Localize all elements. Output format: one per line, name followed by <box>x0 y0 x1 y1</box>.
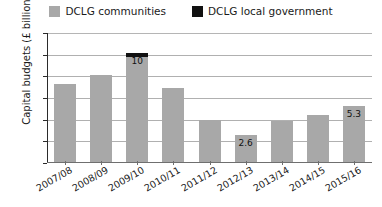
legend-item-dclg-local-government: DCLG local government <box>192 6 333 17</box>
bar-segment-communities <box>199 120 221 163</box>
y-tick-mark <box>43 163 47 164</box>
x-tick-label: 2010/11 <box>139 165 182 196</box>
bar-group <box>199 33 221 163</box>
plot-area: 024681012 102.65.3 <box>47 33 372 163</box>
bar-segment-communities <box>307 115 329 163</box>
x-tick-label: 2009/10 <box>103 165 146 196</box>
x-tick-label: 2008/09 <box>67 165 110 196</box>
x-tick-label: 2011/12 <box>175 165 218 196</box>
bar-group: 2.6 <box>235 33 257 163</box>
x-tick-label: 2012/13 <box>212 165 255 196</box>
bar-series-container: 102.65.3 <box>47 33 372 163</box>
bar-segment-communities <box>126 57 148 163</box>
x-tick-label: 2015/16 <box>320 165 363 196</box>
legend-item-dclg-communities: DCLG communities <box>49 6 166 17</box>
legend-swatch-icon-communities <box>49 6 60 17</box>
legend-label-communities: DCLG communities <box>65 6 166 17</box>
bar-segment-communities <box>162 88 184 163</box>
bar-group <box>307 33 329 163</box>
bar-segment-communities <box>90 75 112 163</box>
bar-group: 5.3 <box>343 33 365 163</box>
y-axis-title: Capital budgets (£ billions) <box>21 0 32 128</box>
bar-group <box>54 33 76 163</box>
legend-swatch-icon-local-government <box>192 6 203 17</box>
x-axis-labels: 2007/082008/092009/102010/112011/122012/… <box>47 165 372 207</box>
x-tick-label: 2013/14 <box>248 165 291 196</box>
legend-label-local-government: DCLG local government <box>208 6 333 17</box>
bar-segment-communities <box>54 84 76 163</box>
bar-group <box>271 33 293 163</box>
bar-segment-communities <box>271 121 293 163</box>
bar-group: 10 <box>126 33 148 163</box>
bar-value-label: 2.6 <box>235 139 257 148</box>
y-axis-line <box>47 33 48 163</box>
bar-chart-figure: DCLG communities DCLG local government C… <box>0 0 382 207</box>
bar-group <box>162 33 184 163</box>
x-tick-label: 2014/15 <box>284 165 327 196</box>
chart-legend: DCLG communities DCLG local government <box>0 6 382 17</box>
bar-group <box>90 33 112 163</box>
x-tick-label: 2007/08 <box>31 165 74 196</box>
bar-value-label: 5.3 <box>343 110 365 119</box>
bar-value-label: 10 <box>126 57 148 66</box>
